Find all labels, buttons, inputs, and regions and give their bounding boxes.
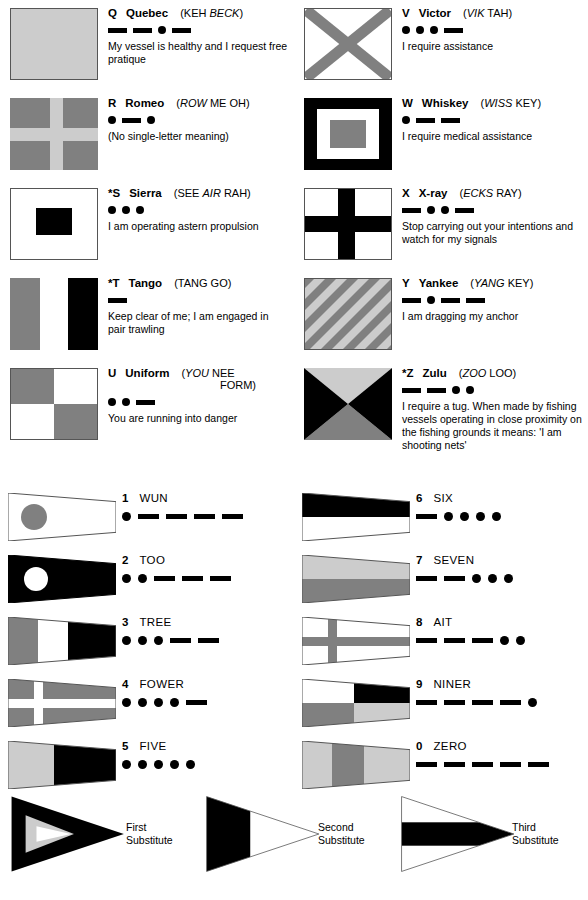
morse-dot bbox=[504, 574, 513, 583]
flag-meaning: I am dragging my anchor bbox=[402, 310, 582, 323]
morse-dash bbox=[170, 638, 191, 643]
morse-dot bbox=[138, 636, 147, 645]
morse-dash bbox=[472, 700, 493, 705]
flag-name: Quebec bbox=[126, 7, 168, 19]
pennant-header: 2TOO bbox=[122, 553, 292, 567]
flag-meaning: You are running into danger bbox=[108, 412, 288, 425]
pennant-number: 5 bbox=[122, 740, 128, 752]
flag-entry-y: YYankee(YANG KEY) I am dragging my ancho… bbox=[294, 270, 588, 360]
morse-dot bbox=[122, 398, 130, 406]
morse-dot bbox=[441, 206, 449, 214]
morse-dot bbox=[472, 574, 481, 583]
morse-dot bbox=[122, 206, 130, 214]
morse-dash bbox=[472, 762, 493, 767]
substitute-label-line2: Substitute bbox=[318, 834, 365, 846]
morse-dash bbox=[416, 700, 437, 705]
pennant-image-5 bbox=[8, 741, 116, 789]
pennant-entry-2: 2TOO bbox=[0, 549, 294, 611]
morse-dash bbox=[441, 118, 460, 123]
morse-dot bbox=[427, 206, 435, 214]
flag-name: Yankee bbox=[419, 277, 459, 289]
morse-code bbox=[402, 384, 584, 396]
flag-letter: W bbox=[402, 97, 413, 109]
flag-pronunciation: (TANG GO) bbox=[174, 277, 231, 289]
flag-name: Romeo bbox=[125, 97, 164, 109]
morse-dash bbox=[472, 638, 493, 643]
flag-image-q bbox=[10, 8, 98, 80]
morse-dot bbox=[122, 574, 131, 583]
morse-dot bbox=[122, 636, 131, 645]
pennant-image-8 bbox=[302, 617, 410, 665]
pennant-image-2 bbox=[8, 555, 116, 603]
flag-meaning: I am operating astern propulsion bbox=[108, 220, 288, 233]
morse-dash bbox=[194, 514, 215, 519]
pennant-number: 4 bbox=[122, 678, 128, 690]
morse-dash bbox=[444, 576, 465, 581]
pennant-text-9: 9NINER bbox=[416, 677, 586, 708]
pennant-text-5: 5FIVE bbox=[122, 739, 292, 770]
pennant-header: 9NINER bbox=[416, 677, 586, 691]
flag-letter: *S bbox=[108, 187, 120, 199]
flag-header: *ZZulu(ZOO LOO) bbox=[402, 366, 584, 380]
flag-pronunciation: (YOU NEE bbox=[181, 367, 234, 379]
flag-pronunciation: (YANG KEY) bbox=[470, 277, 533, 289]
morse-code bbox=[122, 696, 292, 708]
morse-dash bbox=[186, 700, 207, 705]
morse-dash bbox=[182, 576, 203, 581]
pennant-image-9 bbox=[302, 679, 410, 727]
flag-text-t: *TTango(TANG GO) Keep clear of me; I am … bbox=[108, 276, 290, 336]
morse-dash bbox=[122, 118, 141, 123]
morse-dash bbox=[500, 762, 521, 767]
substitute-pennant-1 bbox=[10, 795, 127, 873]
pennant-number: 3 bbox=[122, 616, 128, 628]
flag-image-s bbox=[10, 188, 98, 260]
morse-dash bbox=[500, 700, 521, 705]
morse-dash bbox=[402, 208, 421, 213]
flag-meaning: Keep clear of me; I am engaged in pair t… bbox=[108, 310, 288, 336]
pennant-number: 7 bbox=[416, 554, 422, 566]
pennant-word: ZERO bbox=[433, 740, 467, 752]
morse-dot bbox=[138, 760, 147, 769]
morse-dot bbox=[138, 698, 147, 707]
morse-dash bbox=[402, 298, 421, 303]
flag-entry-u: UUniform(YOU NEE FORM) You are running i… bbox=[0, 360, 294, 450]
morse-dash bbox=[466, 298, 485, 303]
pennant-image-3 bbox=[8, 617, 116, 665]
pennant-entry-4: 4FOWER bbox=[0, 673, 294, 735]
pennant-text-0: 0ZERO bbox=[416, 739, 586, 770]
morse-dash bbox=[427, 388, 446, 393]
flag-pronunciation: (ROW ME OH) bbox=[176, 97, 249, 109]
morse-dot bbox=[158, 26, 166, 34]
pennant-word: AIT bbox=[433, 616, 452, 628]
flag-pronunciation: (ZOO LOO) bbox=[459, 367, 516, 379]
letter-flags-right-column: VVictor(VIK TAH) I require assistance WW… bbox=[294, 0, 588, 450]
pennant-word: SEVEN bbox=[433, 554, 474, 566]
morse-dot bbox=[460, 512, 469, 521]
flag-text-u: UUniform(YOU NEE FORM) You are running i… bbox=[108, 366, 290, 425]
pennant-image-1 bbox=[8, 493, 116, 541]
flag-text-s: *SSierra(SEE AIR RAH) I am operating ast… bbox=[108, 186, 290, 233]
flag-meaning: My vessel is healthy and I request free … bbox=[108, 40, 288, 66]
flag-image-r bbox=[10, 98, 98, 170]
flag-text-x: XX-ray(ECKS RAY) Stop carrying out your … bbox=[402, 186, 584, 246]
morse-dash bbox=[154, 576, 175, 581]
flag-pronunciation: (WISS KEY) bbox=[481, 97, 542, 109]
morse-dot bbox=[154, 760, 163, 769]
morse-code bbox=[122, 510, 292, 522]
morse-dash bbox=[222, 514, 243, 519]
flag-image-z bbox=[304, 368, 392, 440]
morse-dot bbox=[476, 512, 485, 521]
flag-text-z: *ZZulu(ZOO LOO) I require a tug. When ma… bbox=[402, 366, 584, 452]
flag-letter: *Z bbox=[402, 367, 414, 379]
flag-name: Sierra bbox=[129, 187, 162, 199]
pennant-header: 0ZERO bbox=[416, 739, 586, 753]
flag-entry-q: QQuebec(KEH BECK) My vessel is healthy a… bbox=[0, 0, 294, 90]
flag-meaning: Stop carrying out your intentions and wa… bbox=[402, 220, 582, 246]
pennant-entry-1: 1WUN bbox=[0, 487, 294, 549]
flag-meaning: I require assistance bbox=[402, 40, 582, 53]
morse-dot bbox=[170, 760, 179, 769]
flag-name: Uniform bbox=[125, 367, 169, 379]
pennant-image-6 bbox=[302, 493, 410, 541]
morse-dash bbox=[108, 298, 127, 303]
substitute-label-2: Second Substitute bbox=[318, 821, 365, 847]
